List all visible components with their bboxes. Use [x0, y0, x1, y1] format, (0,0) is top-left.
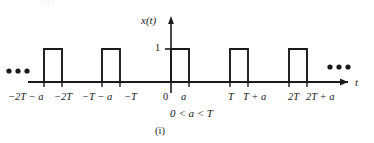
amplitude-label: 1 [155, 43, 160, 54]
pulse-rect [102, 49, 120, 82]
x-axis-arrowhead [340, 79, 348, 86]
condition-label: 0 < a < T [170, 108, 213, 119]
y-axis-label: x(t) [141, 15, 156, 26]
x-axis-label: t [355, 77, 358, 88]
tick-label-neg2T-minus-a: −2T − a [8, 92, 44, 103]
pulse-rect [44, 49, 62, 82]
tick-label-neg2T: −2T [54, 92, 72, 103]
tick-label-negT-minus-a: −T − a [82, 92, 112, 103]
tick-label-T: T [228, 92, 234, 103]
pulse-rect [171, 49, 189, 82]
ellipsis-left-icon [6, 68, 29, 73]
tick-label-zero: 0 [163, 92, 168, 103]
figure-caption: (i) [155, 126, 165, 137]
pulse-rect [289, 49, 307, 82]
pulse-rect [230, 49, 248, 82]
tick-label-negT: −T [124, 92, 137, 103]
tick-label-2T-plus-a: 2T + a [306, 92, 335, 103]
ellipsis-right-icon [327, 64, 350, 69]
figure-container: x(t) [0, 0, 374, 143]
tick-label-2T: 2T [288, 92, 299, 103]
y-axis-arrowhead [168, 16, 174, 24]
tick-label-a: a [181, 92, 186, 103]
tick-label-T-plus-a: T + a [243, 92, 266, 103]
waveform-plot [0, 0, 374, 143]
